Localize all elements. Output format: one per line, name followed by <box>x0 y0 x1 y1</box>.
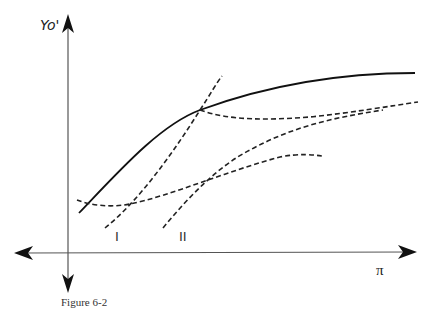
figure-caption: Figure 6-2 <box>61 296 107 308</box>
y-axis-label: Yo' <box>40 17 59 33</box>
dashed-upper-flat-curve <box>200 102 418 119</box>
curve-label-i: I <box>115 229 119 244</box>
solid-envelope-curve <box>79 73 415 213</box>
dashed-low-flat-curve <box>77 155 322 206</box>
curve-label-ii: II <box>179 229 187 244</box>
x-axis <box>14 245 417 260</box>
diagram-canvas <box>0 0 432 318</box>
dashed-curve-ii <box>163 110 383 228</box>
figure-6-2: Yo' π I II Figure 6-2 <box>0 0 432 318</box>
x-axis-label: π <box>376 262 384 279</box>
dashed-curve-i <box>105 76 222 228</box>
y-axis <box>62 14 74 293</box>
